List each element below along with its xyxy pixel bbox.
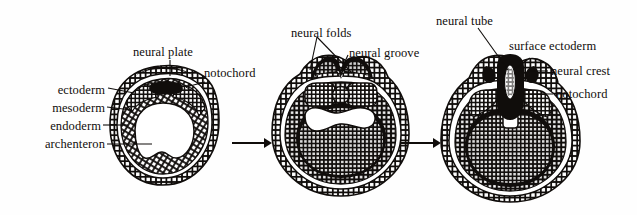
label-notochord-stage1: notochord — [204, 66, 256, 81]
label-endoderm: endoderm — [0, 119, 101, 134]
label-neural-crest: neural crest — [551, 64, 610, 79]
stage2-somite-left — [305, 83, 335, 106]
label-ectoderm: ectoderm — [0, 83, 105, 98]
embryo-stage-2-neural-groove — [265, 50, 415, 202]
stage2-notochord — [333, 87, 350, 104]
label-neural-folds: neural folds — [291, 26, 352, 41]
label-archenteron: archenteron — [0, 137, 105, 152]
label-notochord-stage3: notochord — [556, 87, 608, 102]
label-neural-tube: neural tube — [436, 14, 493, 29]
transition-arrow-1 — [232, 138, 272, 148]
label-mesoderm: mesoderm — [0, 101, 105, 116]
neurulation-diagram: ectoderm mesoderm endoderm archenteron n… — [0, 0, 637, 215]
label-surface-ectoderm: surface ectoderm — [509, 39, 596, 54]
stage1-archenteron-cavity — [135, 103, 194, 158]
label-neural-plate: neural plate — [133, 45, 193, 60]
stage2-somite-right — [347, 83, 377, 106]
label-neural-groove: neural groove — [349, 46, 419, 61]
